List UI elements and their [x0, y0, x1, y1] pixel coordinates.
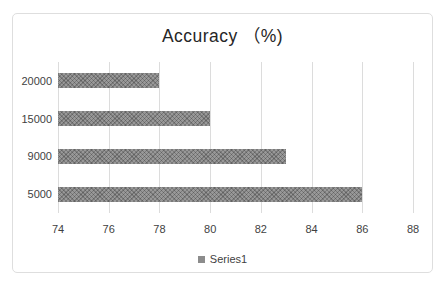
bar-9000 — [58, 149, 286, 164]
legend: Series1 — [12, 252, 433, 266]
y-tick-label: 20000 — [6, 74, 52, 88]
legend-marker-icon — [198, 256, 205, 263]
bar-15000 — [58, 111, 210, 126]
y-tick-label: 9000 — [6, 149, 52, 163]
x-tick-label: 78 — [153, 222, 165, 236]
chart-image: Accuracy （%) 20000 15000 9000 5000 74 76… — [0, 0, 443, 286]
y-tick-label: 5000 — [6, 187, 52, 201]
bar-20000 — [58, 73, 159, 88]
bar-5000 — [58, 187, 362, 202]
y-tick-label: 15000 — [6, 112, 52, 126]
x-tick-label: 88 — [407, 222, 419, 236]
gridline — [413, 62, 414, 213]
x-tick-label: 82 — [255, 222, 267, 236]
plot-area — [58, 62, 413, 213]
x-tick-label: 76 — [103, 222, 115, 236]
x-tick-label: 74 — [52, 222, 64, 236]
legend-label: Series1 — [210, 253, 247, 265]
x-tick-label: 86 — [356, 222, 368, 236]
x-tick-label: 80 — [204, 222, 216, 236]
chart-title: Accuracy （%) — [12, 22, 433, 47]
gridline — [362, 62, 363, 213]
x-tick-label: 84 — [305, 222, 317, 236]
